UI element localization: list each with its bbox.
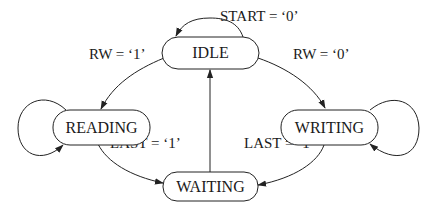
state-diagram: START = ‘0’ RW = ‘1’ RW = ‘0’ LAST = ‘1’…	[0, 0, 438, 212]
node-label-waiting: WAITING	[176, 178, 245, 195]
node-idle: IDLE	[162, 37, 259, 69]
node-reading: READING	[53, 110, 150, 145]
edge-label-rw0: RW = ‘0’	[293, 46, 350, 62]
node-label-idle: IDLE	[192, 44, 228, 61]
node-label-writing: WRITING	[295, 119, 365, 136]
edge-label-rw1: RW = ‘1’	[89, 46, 146, 62]
node-label-reading: READING	[66, 119, 138, 136]
node-waiting: WAITING	[163, 172, 258, 201]
edge-idle-to-reading	[101, 58, 164, 109]
edge-label-start: START = ‘0’	[220, 8, 299, 24]
edge-idle-to-writing	[258, 58, 325, 108]
node-writing: WRITING	[281, 110, 378, 145]
edge-writing-to-waiting	[258, 145, 324, 185]
